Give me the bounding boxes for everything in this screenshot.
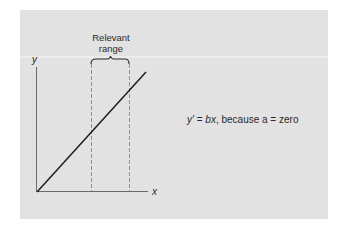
equation-label: y' = bx, because a = zero [187, 114, 298, 125]
equation-rest: , because a = zero [216, 114, 299, 125]
equation-equals: = [194, 114, 205, 125]
range-label-line2: range [86, 43, 136, 54]
range-label-line1: Relevant [86, 32, 136, 43]
equation-lhs: y' [187, 114, 194, 125]
x-axis-label: x [152, 186, 157, 197]
equation-term: bx [205, 114, 216, 125]
range-brace [91, 56, 129, 64]
y-axis-label: y [32, 54, 37, 65]
relevant-range-label: Relevant range [86, 32, 136, 54]
